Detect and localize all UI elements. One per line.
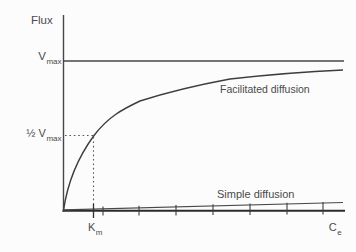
facilitated-diffusion-label: Facilitated diffusion [220,84,310,96]
simple-diffusion-label-text: Simple diffusion [217,188,294,200]
half-vmax-label-subscript: max [46,134,61,143]
simple-diffusion-line [64,203,344,210]
half-vmax-label: ½ Vmax [0,127,61,139]
ce-label: Ce [320,221,350,233]
km-label: Km [80,221,110,233]
facilitated-diffusion-label-text: Facilitated diffusion [220,83,310,95]
simple-diffusion-label: Simple diffusion [217,188,294,200]
km-label-subscript: m [96,228,103,237]
vmax-label: Vmax [0,50,61,63]
y-axis-title: Flux [31,14,53,27]
vmax-label-subscript: max [46,57,61,66]
vmax-label-base: V [38,50,46,62]
km-label-base: K [88,221,95,233]
half-vmax-label-base: ½ V [26,127,46,139]
ce-label-subscript: e [337,228,341,237]
diffusion-kinetics-figure: Flux Vmax ½ Vmax Facilitated diffusion S… [0,0,356,252]
ce-label-base: C [329,221,337,233]
y-axis-title-text: Flux [31,14,53,26]
plot-canvas [0,0,356,252]
